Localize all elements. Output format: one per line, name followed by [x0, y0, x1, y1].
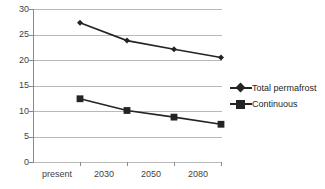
legend-label: Continuous — [252, 99, 298, 109]
series-continuous — [77, 95, 225, 127]
data-point — [124, 107, 131, 114]
chart-legend: Total permafrost Continuous — [230, 80, 325, 112]
series-total-permafrost — [77, 20, 224, 61]
data-point — [77, 20, 83, 26]
data-point — [77, 95, 84, 102]
legend-label: Total permafrost — [252, 83, 317, 93]
line-chart: 30 25 20 15 10 5 0 present 2030 2050 208… — [0, 0, 325, 189]
legend-item-total-permafrost: Total permafrost — [230, 80, 325, 96]
data-point — [171, 114, 178, 121]
series-line — [80, 23, 221, 58]
data-point — [218, 54, 224, 60]
legend-item-continuous: Continuous — [230, 96, 325, 112]
diamond-marker-icon — [230, 82, 252, 94]
data-point — [124, 38, 130, 44]
series-line — [80, 99, 221, 125]
data-point — [218, 121, 225, 128]
data-point — [171, 46, 177, 52]
square-marker-icon — [230, 98, 252, 110]
